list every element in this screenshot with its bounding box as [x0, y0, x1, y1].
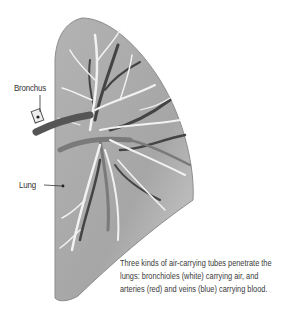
caption-line: lungs: bronchioles (white) carrying air,… [120, 270, 292, 283]
figure-caption: Three kinds of air-carrying tubes penetr… [120, 257, 292, 296]
caption-line: Three kinds of air-carrying tubes penetr… [120, 257, 292, 270]
lung-label: Lung [19, 180, 36, 190]
lung-diagram: Bronchus Lung Three kinds of air-carryin… [0, 0, 303, 323]
bronchus-label: Bronchus [14, 83, 46, 93]
caption-line: arteries (red) and veins (blue) carrying… [120, 283, 292, 296]
